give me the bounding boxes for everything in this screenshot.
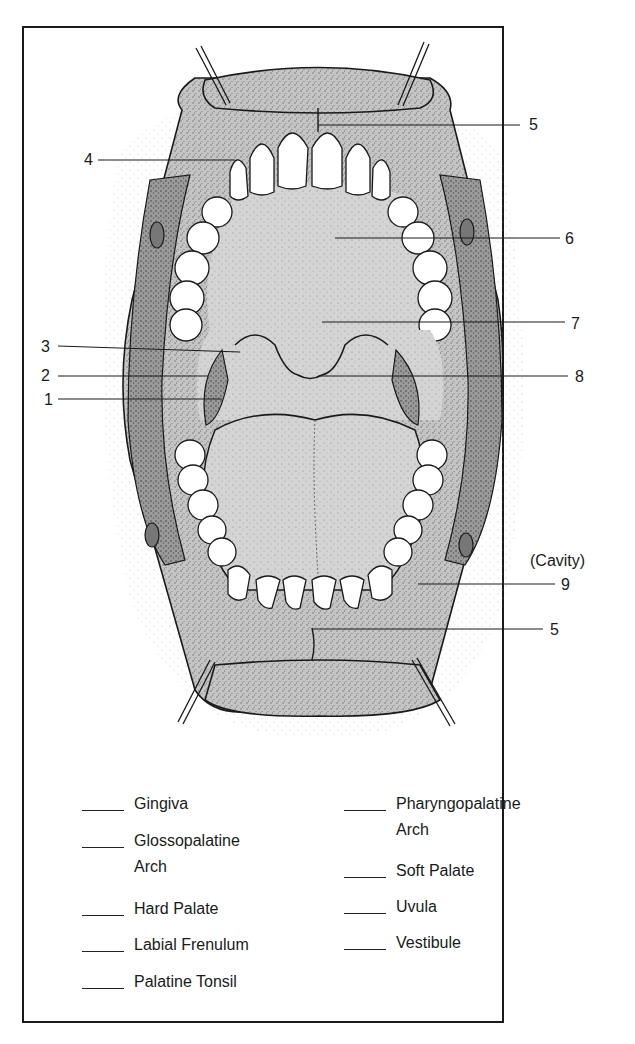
label-answer-list: Gingiva Glossopalatine Arch Hard Palate … — [82, 780, 562, 1000]
answer-blank[interactable] — [82, 796, 124, 811]
answer-gingiva[interactable]: Gingiva — [82, 796, 188, 817]
callout-4: 4 — [84, 152, 93, 168]
answer-soft-palate[interactable]: Soft Palate — [344, 863, 474, 884]
term-label: Gingiva — [134, 791, 188, 817]
term-label: Soft Palate — [396, 858, 474, 884]
left-lower-papilla — [145, 523, 159, 547]
upper-lip — [203, 68, 433, 114]
answer-hard-palate[interactable]: Hard Palate — [82, 901, 219, 922]
right-parotid-papilla — [460, 219, 474, 245]
answer-blank[interactable] — [82, 974, 124, 989]
answer-glossopalatine-arch[interactable]: Glossopalatine Arch — [82, 833, 240, 880]
answer-vestibule[interactable]: Vestibule — [344, 935, 461, 956]
callout-3: 3 — [41, 339, 50, 355]
cavity-note: (Cavity) — [530, 553, 585, 569]
answer-blank[interactable] — [344, 863, 386, 878]
callout-5-upper: 5 — [529, 117, 538, 133]
answer-blank[interactable] — [344, 796, 386, 811]
answer-palatine-tonsil[interactable]: Palatine Tonsil — [82, 974, 237, 995]
callout-1: 1 — [44, 392, 53, 408]
term-label: Palatine Tonsil — [134, 969, 237, 995]
answer-blank[interactable] — [344, 935, 386, 950]
term-label: Vestibule — [396, 930, 461, 956]
left-parotid-papilla — [150, 222, 164, 248]
term-label: Hard Palate — [134, 896, 219, 922]
right-lower-papilla — [459, 533, 473, 557]
answer-pharyngopalatine-arch[interactable]: Pharyngopalatine Arch — [344, 796, 521, 843]
callout-2: 2 — [41, 368, 50, 384]
answer-blank[interactable] — [344, 899, 386, 914]
term-label: Glossopalatine Arch — [134, 828, 240, 880]
oral-cavity-illustration — [0, 0, 635, 760]
answer-labial-frenulum[interactable]: Labial Frenulum — [82, 937, 249, 958]
answer-blank[interactable] — [82, 833, 124, 848]
term-label: Uvula — [396, 894, 437, 920]
callout-9: 9 — [561, 577, 570, 593]
answer-blank[interactable] — [82, 901, 124, 916]
lower-lip — [205, 660, 440, 716]
callout-8: 8 — [575, 369, 584, 385]
answer-uvula[interactable]: Uvula — [344, 899, 437, 920]
callout-6: 6 — [565, 231, 574, 247]
answer-blank[interactable] — [82, 937, 124, 952]
callout-7: 7 — [571, 316, 580, 332]
term-label: Labial Frenulum — [134, 932, 249, 958]
callout-5-lower: 5 — [550, 622, 559, 638]
term-label: Pharyngopalatine Arch — [396, 791, 521, 843]
